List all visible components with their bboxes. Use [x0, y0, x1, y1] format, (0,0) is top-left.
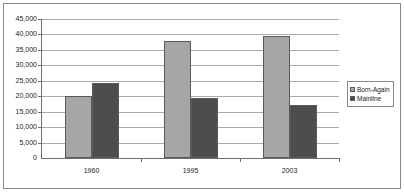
y-tick-label: 35,000	[16, 46, 37, 54]
bar-group-1995	[141, 19, 240, 158]
y-tick-label: 20,000	[16, 92, 37, 100]
y-tick-label: 40,000	[16, 30, 37, 38]
x-tick-label-2003: 2003	[240, 166, 339, 175]
x-axis-tick	[141, 159, 142, 162]
x-axis-category-labels: 1960 1995 2003	[42, 166, 339, 175]
x-axis-tick	[240, 159, 241, 162]
bar-mainline-1960[interactable]	[92, 83, 119, 158]
x-axis-line	[41, 158, 340, 159]
x-tick-label-1995: 1995	[141, 166, 240, 175]
bar-groups	[42, 19, 339, 158]
bar-born-again-2003[interactable]	[263, 36, 290, 158]
y-tick-label: 30,000	[16, 61, 37, 69]
y-tick-label: 15,000	[16, 108, 37, 116]
bar-group-2003	[240, 19, 339, 158]
x-axis-tick	[339, 159, 340, 162]
y-tick-label: 0	[33, 154, 37, 162]
bar-born-again-1995[interactable]	[164, 41, 191, 158]
legend-label-mainline: Mainline	[357, 95, 381, 103]
legend-item-born-again[interactable]: Born-Again	[350, 85, 390, 94]
legend-label-born-again: Born-Again	[357, 86, 390, 94]
bar-mainline-1995[interactable]	[191, 98, 218, 158]
y-tick-label: 5,000	[19, 139, 37, 147]
x-tick-label-1960: 1960	[42, 166, 141, 175]
y-axis-tick-labels: 45,000 40,000 35,000 30,000 25,000 20,00…	[0, 0, 37, 192]
y-tick-label: 25,000	[16, 77, 37, 85]
y-tick-label: 10,000	[16, 123, 37, 131]
legend-swatch-icon	[350, 96, 355, 101]
bar-mainline-2003[interactable]	[290, 105, 317, 158]
y-tick-label: 45,000	[16, 15, 37, 23]
chart-legend: Born-Again Mainline	[347, 81, 394, 107]
legend-swatch-icon	[350, 87, 355, 92]
bar-born-again-1960[interactable]	[65, 96, 92, 158]
bar-group-1960	[42, 19, 141, 158]
legend-item-mainline[interactable]: Mainline	[350, 94, 390, 103]
bar-chart-figure: 45,000 40,000 35,000 30,000 25,000 20,00…	[0, 0, 404, 192]
